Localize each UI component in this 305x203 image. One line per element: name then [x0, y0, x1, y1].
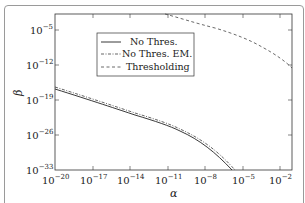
svg-text:10−14: 10−14 [117, 173, 145, 186]
legend-item-no-thres: No Thres. [130, 36, 178, 47]
legend-item-thresholding: Thresholding [126, 61, 190, 72]
svg-text:10−5: 10−5 [30, 23, 53, 36]
x-axis-label: α [170, 187, 178, 200]
legend-item-no-thres-em: No Thres. EM. [122, 48, 192, 59]
series-no-thres-em [55, 87, 235, 170]
svg-text:10−17: 10−17 [80, 173, 108, 186]
y-axis-label: β [12, 90, 25, 97]
svg-text:10−19: 10−19 [26, 93, 54, 106]
y-tick-labels: 10−5 10−12 10−19 10−26 10−33 [26, 23, 54, 176]
series-no-thres [55, 89, 232, 170]
svg-text:10−8: 10−8 [194, 173, 217, 186]
svg-text:10−12: 10−12 [26, 58, 54, 71]
svg-text:10−26: 10−26 [26, 128, 54, 141]
svg-text:10−2: 10−2 [269, 173, 292, 186]
legend: No Thres. No Thres. EM. Thresholding [97, 33, 194, 76]
x-tick-labels: 10−20 10−17 10−14 10−11 10−8 10−5 10−2 [42, 173, 292, 186]
svg-text:10−5: 10−5 [232, 173, 255, 186]
svg-text:10−11: 10−11 [155, 173, 183, 186]
svg-text:10−20: 10−20 [42, 173, 70, 186]
chart: 10−5 10−12 10−19 10−26 10−33 10−20 10−17… [0, 0, 305, 203]
